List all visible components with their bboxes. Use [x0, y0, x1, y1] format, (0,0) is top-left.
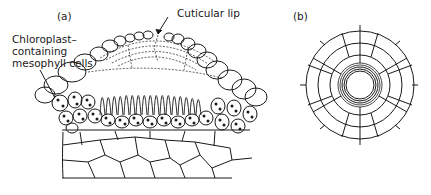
panel-b-label: (b)	[293, 10, 308, 22]
parenchyma-cells	[62, 130, 252, 178]
palisade-cells	[100, 96, 201, 116]
chloroplast-label-line1: Chloroplast–	[12, 33, 93, 45]
figure-drawing	[0, 0, 431, 195]
chloroplast-mesophyll-label: Chloroplast– containing mesophyll cells	[12, 33, 93, 69]
chloroplast-label-line2: containing	[12, 45, 93, 57]
chloroplast-label-line3: mesophyll cells	[12, 57, 93, 69]
cuticular-lip-label: Cuticular lip	[177, 7, 240, 19]
cuticular-lip-arrow	[156, 17, 168, 34]
botanical-figure: (a) (b) Cuticular lip Chloroplast– conta…	[0, 0, 431, 195]
panel-a-label: (a)	[57, 10, 72, 22]
surface-view-cells	[300, 25, 418, 145]
chloroplast-pointer	[40, 70, 55, 98]
